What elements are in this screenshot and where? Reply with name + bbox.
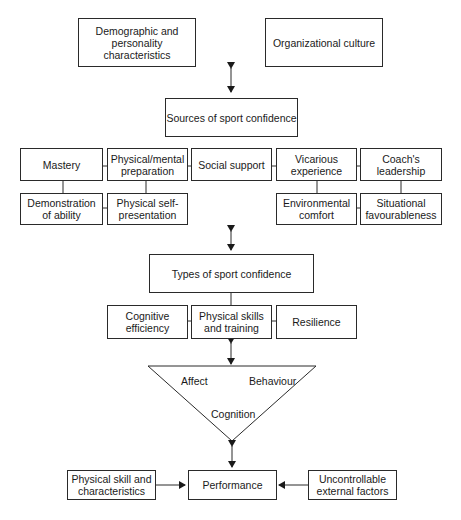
label-behaviour: Behaviour [249, 375, 296, 387]
box-demographic: Demographic andpersonality characteristi… [78, 18, 196, 67]
label: Demographic and [79, 25, 195, 37]
box-performance: Performance [188, 470, 277, 500]
box-sources-title: Sources of sport confidence [165, 98, 298, 137]
box-types-title: Types of sport confidence [149, 254, 314, 293]
box-physical-mental-preparation: Physical/mentalpreparation [107, 148, 188, 181]
label: Organizational culture [273, 37, 375, 49]
box-resilience: Resilience [276, 305, 357, 339]
box-physical-skill-characteristics: Physical skill andcharacteristics [67, 470, 156, 500]
box-physical-self-presentation: Physical self-presentation [107, 193, 188, 225]
box-environmental-comfort: Environmentalcomfort [276, 193, 357, 225]
box-social-support: Social support [191, 148, 272, 181]
label-cognition: Cognition [211, 408, 255, 420]
box-coachs-leadership: Coach'sleadership [360, 148, 442, 181]
box-situational-favourableness: Situationalfavourableness [360, 193, 442, 225]
box-demonstration-of-ability: Demonstrationof ability [20, 193, 103, 225]
box-mastery: Mastery [20, 148, 103, 181]
label: Sources of sport confidence [166, 112, 296, 124]
label: personality characteristics [79, 37, 195, 61]
box-vicarious-experience: Vicariousexperience [276, 148, 357, 181]
box-uncontrollable-external-factors: Uncontrollableexternal factors [308, 470, 397, 500]
box-organizational-culture: Organizational culture [265, 18, 383, 67]
box-physical-skills-training: Physical skillsand training [191, 305, 272, 339]
label-affect: Affect [181, 375, 208, 387]
box-cognitive-efficiency: Cognitiveefficiency [107, 305, 188, 339]
